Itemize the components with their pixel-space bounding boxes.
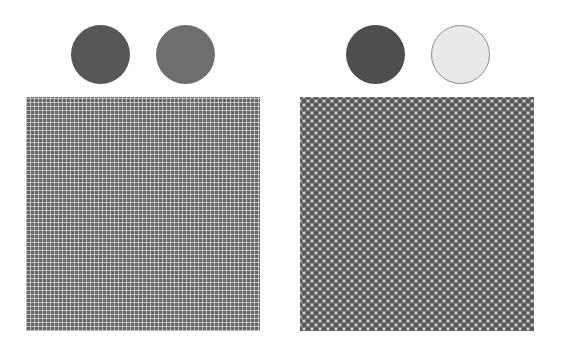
swatch-left-dark [71, 25, 130, 84]
right-panel [280, 0, 560, 364]
pattern-right-dots [300, 97, 534, 331]
swatch-right-dark [346, 25, 405, 84]
left-panel [0, 0, 280, 364]
swatch-left-mid [156, 25, 215, 84]
swatch-right-light [431, 25, 490, 84]
pattern-left-grid [26, 97, 260, 331]
